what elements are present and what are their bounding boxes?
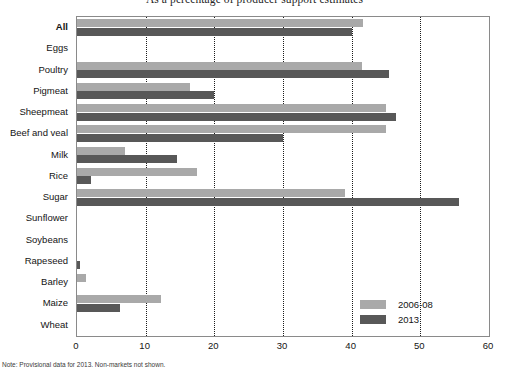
bar-milk-2013 bbox=[77, 155, 177, 163]
y-axis-label-rice: Rice bbox=[49, 165, 68, 186]
x-axis-tick-10: 10 bbox=[139, 340, 150, 351]
plot-area: 2006-08 2013 bbox=[76, 16, 490, 337]
x-axis-tick-30: 30 bbox=[277, 340, 288, 351]
bar-row bbox=[77, 208, 489, 229]
bar-row bbox=[77, 38, 489, 59]
bar-milk-2006-08 bbox=[77, 147, 125, 155]
legend-label-1: 2013 bbox=[398, 314, 419, 325]
bar-beef-and-veal-2013 bbox=[77, 134, 283, 142]
bar-row bbox=[77, 81, 489, 102]
x-axis-tick-40: 40 bbox=[345, 340, 356, 351]
chart-footnote: Note: Provisional data for 2013. Non-mar… bbox=[2, 361, 165, 368]
y-axis-category-labels: AllEggsPoultryPigmeatSheepmeatBeef and v… bbox=[0, 16, 72, 337]
bar-rice-2013 bbox=[77, 176, 91, 184]
bar-pigmeat-2013 bbox=[77, 91, 214, 99]
bar-beef-and-veal-2006-08 bbox=[77, 125, 386, 133]
bar-maize-2013 bbox=[77, 304, 120, 312]
y-axis-label-poultry: Poultry bbox=[38, 59, 68, 80]
y-axis-label-rapeseed: Rapeseed bbox=[25, 250, 68, 271]
legend-swatch-icon-0 bbox=[360, 300, 386, 309]
y-axis-label-wheat: Wheat bbox=[41, 314, 68, 335]
bar-row bbox=[77, 272, 489, 293]
bar-barley-2006-08 bbox=[77, 274, 86, 282]
legend-swatch-icon-1 bbox=[360, 315, 386, 324]
chart-legend: 2006-08 2013 bbox=[357, 295, 455, 329]
x-axis-tick-labels: 0102030405060 bbox=[0, 340, 509, 356]
bar-pigmeat-2006-08 bbox=[77, 83, 190, 91]
y-axis-label-barley: Barley bbox=[41, 271, 68, 292]
legend-label-0: 2006-08 bbox=[398, 299, 433, 310]
y-axis-label-sunflower: Sunflower bbox=[26, 207, 68, 228]
bar-sheepmeat-2006-08 bbox=[77, 104, 386, 112]
bar-rapeseed-2013 bbox=[77, 261, 80, 269]
x-axis-tick-50: 50 bbox=[414, 340, 425, 351]
bar-poultry-2006-08 bbox=[77, 62, 362, 70]
y-axis-label-maize: Maize bbox=[43, 292, 68, 313]
x-axis-tick-60: 60 bbox=[483, 340, 494, 351]
bar-all-2006-08 bbox=[77, 19, 363, 27]
bar-row bbox=[77, 251, 489, 272]
bar-row bbox=[77, 187, 489, 208]
y-axis-label-all: All bbox=[56, 16, 68, 37]
bar-row bbox=[77, 166, 489, 187]
y-axis-label-soybeans: Soybeans bbox=[26, 229, 68, 250]
bar-row bbox=[77, 102, 489, 123]
bar-maize-2006-08 bbox=[77, 295, 161, 303]
bar-row bbox=[77, 145, 489, 166]
y-axis-label-sheepmeat: Sheepmeat bbox=[19, 101, 68, 122]
y-axis-label-milk: Milk bbox=[51, 144, 68, 165]
bar-poultry-2013 bbox=[77, 70, 389, 78]
chart-title: As a percentage of producer support esti… bbox=[0, 0, 509, 5]
bar-sugar-2006-08 bbox=[77, 189, 345, 197]
bar-sheepmeat-2013 bbox=[77, 113, 396, 121]
legend-item-0: 2006-08 bbox=[360, 297, 452, 312]
bar-row bbox=[77, 230, 489, 251]
bar-all-2013 bbox=[77, 28, 352, 36]
x-axis-tick-20: 20 bbox=[208, 340, 219, 351]
y-axis-label-sugar: Sugar bbox=[43, 186, 68, 207]
bar-row bbox=[77, 17, 489, 38]
bar-sugar-2013 bbox=[77, 198, 459, 206]
bar-row bbox=[77, 60, 489, 81]
bar-rice-2006-08 bbox=[77, 168, 197, 176]
legend-item-1: 2013 bbox=[360, 312, 452, 327]
y-axis-label-beef-and-veal: Beef and veal bbox=[10, 122, 68, 143]
bar-row bbox=[77, 123, 489, 144]
y-axis-label-pigmeat: Pigmeat bbox=[33, 80, 68, 101]
x-axis-tick-0: 0 bbox=[73, 340, 78, 351]
y-axis-label-eggs: Eggs bbox=[46, 37, 68, 58]
